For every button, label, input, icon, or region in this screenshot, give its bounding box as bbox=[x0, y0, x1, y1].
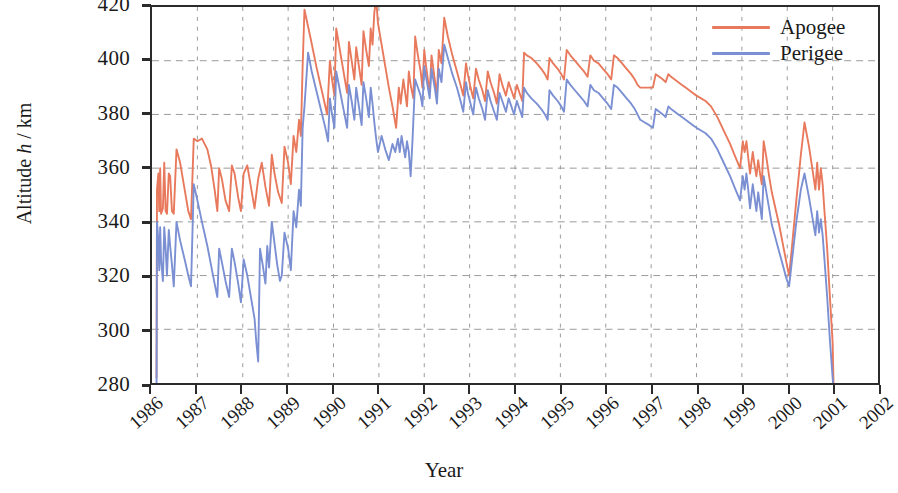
y-axis-title-symbol: h bbox=[13, 144, 35, 154]
legend-swatch-perigee bbox=[712, 52, 770, 55]
y-axis-tick-label: 380 bbox=[10, 103, 130, 124]
y-axis-tick-label: 400 bbox=[10, 48, 130, 69]
chart-legend: Apogee Perigee bbox=[712, 14, 845, 66]
y-axis-tick-label: 340 bbox=[10, 211, 130, 232]
y-axis-tick-label: 420 bbox=[10, 0, 130, 15]
legend-item-perigee: Perigee bbox=[712, 40, 845, 66]
legend-label-apogee: Apogee bbox=[780, 17, 845, 38]
y-axis-tick-label: 360 bbox=[10, 157, 130, 178]
y-axis-tick-label: 320 bbox=[10, 265, 130, 286]
legend-swatch-apogee bbox=[712, 26, 770, 29]
x-axis-tick-label: 2002 bbox=[883, 367, 898, 409]
legend-label-perigee: Perigee bbox=[780, 43, 843, 64]
y-axis-tick-label: 280 bbox=[10, 374, 130, 395]
legend-item-apogee: Apogee bbox=[712, 14, 845, 40]
x-axis-title: Year bbox=[0, 458, 888, 483]
y-axis-tick-label: 300 bbox=[10, 320, 130, 341]
